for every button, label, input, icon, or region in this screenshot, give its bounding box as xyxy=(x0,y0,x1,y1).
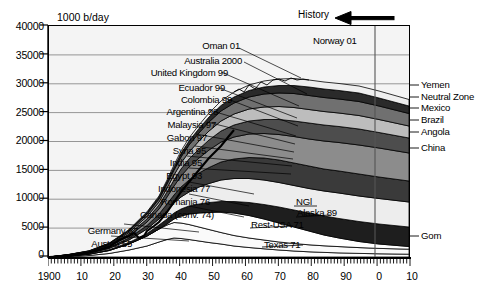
y-tick-5000: 5000 xyxy=(0,220,44,232)
y-tick-30000: 30000 xyxy=(0,77,44,89)
right-label-neutral-zone: Neutral Zone xyxy=(421,92,474,102)
y-tick-40000: 40000 xyxy=(0,20,44,32)
x-tick-1950: 50 xyxy=(196,270,232,282)
x-tick-1910: 10 xyxy=(64,270,100,282)
y-tick-25000: 25000 xyxy=(0,106,44,118)
x-tick-2010: 10 xyxy=(394,270,430,282)
y-tick-15000: 15000 xyxy=(0,163,44,175)
history-annotation-label: History xyxy=(298,9,329,20)
x-tick-2000: 0 xyxy=(361,270,397,282)
y-tick-10000: 10000 xyxy=(0,191,44,203)
x-tick-1930: 30 xyxy=(130,270,166,282)
x-tick-1900: 1900 xyxy=(31,270,67,282)
x-tick-1920: 20 xyxy=(97,270,133,282)
axis-lines xyxy=(40,20,418,270)
right-label-yemen: Yemen xyxy=(421,80,450,90)
x-tick-1980: 80 xyxy=(295,270,331,282)
y-tick-35000: 35000 xyxy=(0,49,44,61)
x-tick-1940: 40 xyxy=(163,270,199,282)
x-tick-1960: 60 xyxy=(229,270,265,282)
y-tick-20000: 20000 xyxy=(0,134,44,146)
x-tick-1970: 70 xyxy=(262,270,298,282)
right-label-angola: Angola xyxy=(421,127,450,137)
chart-figure: 1000 b/day History 40000 35000 30000 250… xyxy=(0,0,490,290)
y-tick-0: 0 xyxy=(0,248,44,260)
x-axis-minor-ticks xyxy=(48,258,412,267)
right-label-mexico: Mexico xyxy=(421,103,450,113)
x-tick-1990: 90 xyxy=(328,270,364,282)
